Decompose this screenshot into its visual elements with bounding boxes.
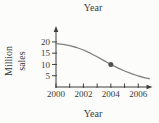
x-axis-arrow-icon (147, 85, 153, 90)
plot-area (56, 44, 149, 79)
x-tick-label: 2000 (47, 89, 66, 99)
x-axis-label: Year (84, 108, 103, 119)
y-axis-arrow-icon (54, 26, 59, 32)
x-tick-label: 2004 (102, 89, 121, 99)
y-tick-label: 5 (46, 71, 51, 81)
y-tick-label: 15 (41, 48, 51, 58)
y-tick-label: 20 (41, 37, 51, 47)
y-axis-label-line2: sales (16, 51, 27, 71)
y-axis-label-line1: Million (3, 46, 14, 76)
y-tick-label: 10 (41, 60, 51, 70)
x-tick-label: 2006 (129, 89, 148, 99)
sales-decline-line-chart: Year Million sales Year 2000200220042006… (0, 0, 159, 123)
chart-figure: Year Million sales Year 2000200220042006… (0, 0, 159, 123)
highlight-point-marker (108, 62, 113, 67)
chart-title: Year (84, 2, 103, 13)
sales-curve (56, 44, 149, 79)
x-tick-label: 2002 (74, 89, 92, 99)
axes: 20002002200420065101520 (41, 26, 153, 99)
